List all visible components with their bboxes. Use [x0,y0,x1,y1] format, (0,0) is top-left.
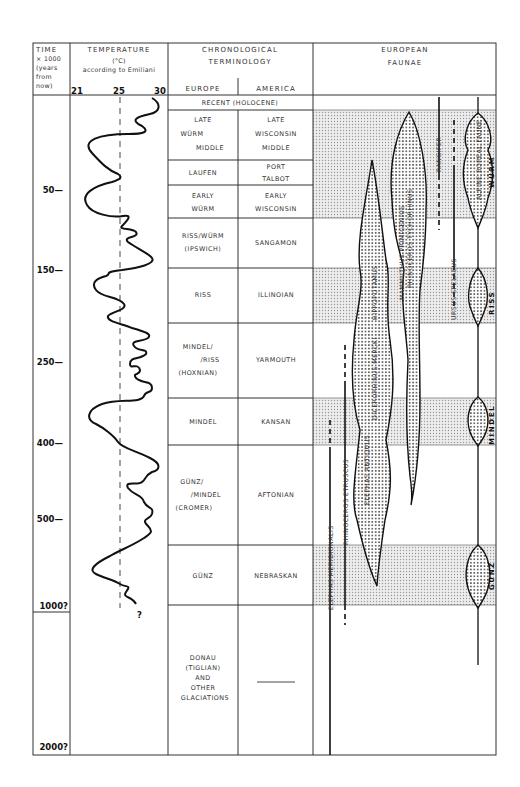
glacial-label-mindel: MINDEL [488,405,496,445]
cell-america-wisconsin: WISCONSIN [255,130,297,138]
scale-21: 21 [71,86,83,96]
cell-europe-wurm: WÜRM [181,130,204,138]
cell-america-talbot: TALBOT [261,175,290,183]
chronology-title-1: CHRONOLOGICAL [202,46,278,54]
label-dicerorhinus-mercki: DICERORHINUS MERCKI [371,337,378,420]
cell-america-illinoian: ILLINOIAN [258,291,294,299]
cell-europe-laufen: LAUFEN [189,169,217,177]
cell-europe-glaciations: GLACIATIONS [181,694,229,702]
time-header-line: (years [36,64,58,72]
header-time: TIME × 1000 (years from now) [35,46,61,89]
cell-europe-ipswich: (IPSWICH) [185,245,222,253]
cell-europe-mindel-riss-1: MINDEL/ [183,343,214,351]
faunae-title-1: EUROPEAN [381,46,428,54]
cell-europe-gunz-mindel-1: GÜNZ/ [180,478,204,486]
time-tick-150: 150— [37,265,64,275]
cell-america-middle: MIDDLE [262,144,290,152]
glacial-label-gunz: GÜNZ [487,561,496,590]
col-america: AMERICA [256,85,296,93]
time-tick-400: 400— [37,438,64,448]
faunae-title-2: FAUNAE [388,59,422,67]
time-tick-50: 50— [43,185,64,195]
cell-europe-donau: DONAU [190,654,216,662]
label-hippopotamus: HIPPOPOTAMUS [371,265,378,320]
scale-25: 25 [113,86,125,96]
cell-america-early-wisconsin: WISCONSIN [255,205,297,213]
col-europe: EUROPE [185,85,220,93]
cell-europe-late: LATE [194,116,212,124]
time-tick-250: 250— [37,357,64,367]
cell-europe-mindel: MINDEL [189,418,217,426]
cell-recent: RECENT (HOLOCENE) [202,99,279,107]
cell-europe-gunz-mindel-2: /MINDEL [191,491,221,499]
label-rhinoceros-etruscus: RHINOCEROS ETRUSCUS [342,459,349,545]
cell-europe-early-wurm: WÜRM [192,205,215,213]
glacial-label-riss: RISS [488,291,496,315]
cell-america-port: PORT [267,163,286,171]
cell-europe-middle: MIDDLE [196,144,224,152]
quaternary-chronology-chart: TIME × 1000 (years from now) TEMPERATURE… [0,0,520,787]
cell-america-early: EARLY [265,192,287,200]
cell-america-kansan: KANSAN [261,418,291,426]
time-tick-1000: 1000? [39,601,68,611]
header-faunae: EUROPEAN FAUNAE [381,46,428,67]
temperature-title: TEMPERATURE [87,46,151,54]
chronology-table: RECENT (HOLOCENE) LATE WÜRM MIDDLE LATE … [176,99,298,702]
curve-end-marker: ? [137,610,142,620]
cell-america-aftonian: AFTONIAN [258,491,295,499]
time-header-line: from [36,73,52,80]
cell-europe-mindel-riss-2: /RISS [200,356,219,364]
chronology-title-2: TERMINOLOGY [207,58,271,66]
time-tick-2000: 2000? [39,742,68,752]
cell-america-yarmouth: YARMOUTH [255,356,296,364]
header-chronology: CHRONOLOGICAL TERMINOLOGY EUROPE AMERICA [185,46,295,93]
temperature-unit: (°C) [112,57,126,64]
cell-europe-hoxnian: (HOXNIAN) [178,369,217,377]
cell-europe-riss: RISS [195,291,211,299]
cell-america-sangamon: SANGAMON [255,239,297,247]
label-mammuthus-primigenius: MAMMUTHUS PRIMIGENIUS [398,205,405,300]
cell-europe-gunz: GÜNZ [193,572,214,580]
cell-europe-cromer: (CROMER) [176,504,213,512]
header-temperature: TEMPERATURE (°C) according to Emiliani 2… [71,46,166,96]
time-axis: 50— 150— 250— 400— 500— 1000? 2000? [37,185,68,752]
time-header-line: now) [36,82,53,89]
cell-america-late: LATE [267,116,285,124]
label-elephas-meridionalis: ELEPHAS MERIDIONALIS [327,525,334,610]
cell-europe-and: AND [195,674,211,682]
label-elephas-antiquus: ELEPHAS ANTIQUUS [363,435,370,505]
cell-europe-other: OTHER [191,684,216,692]
label-rangifer: RANGIFER [435,137,442,172]
time-header-line: × 1000 [36,55,61,62]
label-ursus-spelaeus: URSUS SPELAEUS [450,258,457,320]
label-rhinoceros-tychorhinus: RHINOCEROS TYCHORHINUS [406,189,413,289]
time-header-line: TIME [35,46,57,54]
temperature-source: according to Emiliani [83,66,155,74]
cell-europe-early: EARLY [192,192,214,200]
label-alpine-boreal-faune: ALPINE BOREAL FAUNE [475,120,482,200]
temperature-line [85,98,158,604]
glacial-label-wurm: WÜRM [487,156,496,188]
time-tick-500: 500— [37,514,64,524]
cell-europe-riss-wurm: RISS/WÜRM [182,232,224,240]
cell-europe-tiglian: (TIGLIAN) [186,664,221,672]
temperature-curve: ? [85,97,158,620]
cell-america-nebraskan: NEBRASKAN [254,572,298,580]
scale-30: 30 [154,86,166,96]
